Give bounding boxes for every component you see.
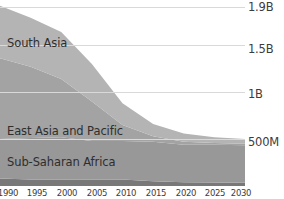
series-label-east-asia-and-pacific: East Asia and Pacific (7, 126, 123, 138)
x-axis-tick-2010: 2010 (116, 188, 136, 199)
x-axis-tick-1990: 1990 (0, 188, 18, 199)
series-label-sub-saharan-africa: Sub-Saharan Africa (7, 157, 115, 169)
x-axis-tick-2030: 2030 (231, 188, 251, 199)
y-axis-tick-1B: 1B (248, 89, 263, 101)
x-axis-tick-2015: 2015 (146, 188, 166, 199)
x-axis: 1990 1995 2000 2005 2010 2015 2020 2025 … (0, 188, 245, 199)
y-axis-tick-1.9B: 1.9B (248, 2, 273, 14)
x-axis-tick-2025: 2025 (205, 188, 225, 199)
y-axis-tick-500M: 500M (248, 137, 279, 149)
x-axis-tick-2000: 2000 (57, 188, 77, 199)
stacked-area-chart: 1.9B 1.5B 1B 500M South Asia East Asia a… (0, 0, 284, 199)
x-axis-tick-2005: 2005 (87, 188, 107, 199)
y-axis-tick-1.5B: 1.5B (248, 44, 273, 56)
x-axis-tick-1995: 1995 (27, 188, 47, 199)
x-axis-tick-2020: 2020 (176, 188, 196, 199)
series-label-south-asia: South Asia (7, 38, 67, 50)
